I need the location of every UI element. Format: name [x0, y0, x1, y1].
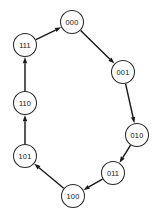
node-label-110: 110: [19, 99, 31, 108]
nodes-layer: 000001010011100101110111: [14, 11, 149, 208]
arrowhead-110-to-111: [23, 57, 27, 63]
arrowhead-101-to-110: [23, 115, 27, 121]
graph-canvas: 000001010011100101110111: [0, 0, 160, 219]
node-010[interactable]: 010: [126, 124, 149, 147]
node-111[interactable]: 111: [14, 34, 37, 57]
edge-000-to-001: [81, 30, 115, 63]
node-label-000: 000: [66, 18, 79, 27]
node-000[interactable]: 000: [61, 11, 84, 34]
node-100[interactable]: 100: [62, 185, 85, 208]
node-110[interactable]: 110: [14, 92, 37, 115]
state-cycle-diagram: 000001010011100101110111: [0, 0, 160, 219]
edge-100-to-101: [34, 164, 63, 189]
node-label-111: 111: [19, 41, 31, 50]
edge-001-to-010: [126, 84, 136, 123]
edge-010-to-011: [119, 145, 130, 163]
node-label-001: 001: [117, 68, 130, 77]
node-101[interactable]: 101: [14, 145, 37, 168]
edge-101-to-110: [23, 115, 27, 144]
arrowhead-011-to-100: [83, 185, 89, 190]
edge-011-to-100: [83, 179, 102, 190]
arrowhead-010-to-011: [119, 156, 124, 162]
arrowhead-111-to-000: [55, 27, 62, 32]
node-001[interactable]: 001: [112, 61, 135, 84]
node-label-100: 100: [67, 192, 80, 201]
node-label-101: 101: [19, 152, 32, 161]
edge-111-to-000: [36, 27, 61, 39]
node-label-011: 011: [107, 169, 119, 178]
node-011[interactable]: 011: [102, 162, 125, 185]
arrowhead-001-to-010: [131, 117, 135, 124]
node-label-010: 010: [131, 131, 144, 140]
edge-110-to-111: [23, 57, 27, 91]
